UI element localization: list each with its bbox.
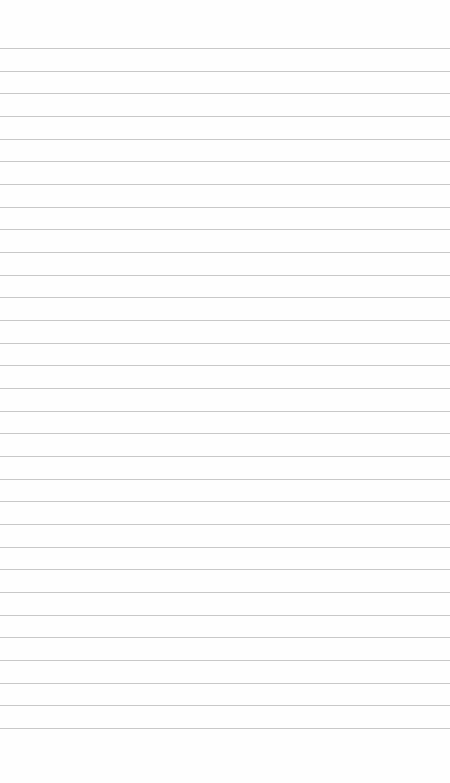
ruled-line — [0, 252, 450, 253]
ruled-line — [0, 615, 450, 616]
ruled-line — [0, 93, 450, 94]
ruled-line — [0, 184, 450, 185]
ruled-line — [0, 411, 450, 412]
ruled-line — [0, 365, 450, 366]
ruled-line — [0, 48, 450, 49]
ruled-line — [0, 320, 450, 321]
ruled-line — [0, 161, 450, 162]
ruled-line — [0, 547, 450, 548]
ruled-line — [0, 660, 450, 661]
ruled-line — [0, 705, 450, 706]
ruled-line — [0, 297, 450, 298]
ruled-line — [0, 592, 450, 593]
ruled-line — [0, 683, 450, 684]
ruled-line — [0, 139, 450, 140]
ruled-line — [0, 501, 450, 502]
ruled-line — [0, 388, 450, 389]
ruled-line — [0, 569, 450, 570]
ruled-line — [0, 637, 450, 638]
ruled-line — [0, 275, 450, 276]
ruled-line — [0, 71, 450, 72]
ruled-line — [0, 728, 450, 729]
ruled-line — [0, 479, 450, 480]
ruled-line — [0, 524, 450, 525]
ruled-line — [0, 343, 450, 344]
lined-paper-page — [0, 0, 450, 783]
ruled-line — [0, 456, 450, 457]
ruled-line — [0, 116, 450, 117]
ruled-line — [0, 229, 450, 230]
ruled-line — [0, 207, 450, 208]
ruled-line — [0, 433, 450, 434]
